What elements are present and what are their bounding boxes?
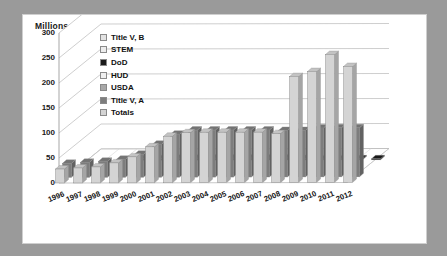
chart-plot-area: 1996199719981999200020012002200320042005… xyxy=(23,15,426,243)
x-axis-tick-label: 2012 xyxy=(335,189,354,204)
x-axis-tick-label: 2001 xyxy=(137,189,157,204)
x-axis-tick-label: 1998 xyxy=(83,189,102,204)
legend-item-label: STEM xyxy=(111,45,133,54)
legend-item-label: Totals xyxy=(111,108,134,117)
chart-outer-frame: Millions 300250200150100500 199619971998… xyxy=(0,0,447,256)
legend-item[interactable]: STEM xyxy=(100,44,144,57)
legend-item-label: DoD xyxy=(111,58,127,67)
legend-item-label: USDA xyxy=(111,83,134,92)
x-axis-tick-label: 2011 xyxy=(317,189,336,204)
legend-item-label: Title V, B xyxy=(111,33,144,42)
x-axis-tick-label: 2010 xyxy=(299,189,318,204)
legend-swatch-icon xyxy=(100,72,107,79)
legend-swatch-icon xyxy=(100,84,107,91)
x-axis-tick-label: 1996 xyxy=(47,189,66,204)
chart-canvas: Millions 300250200150100500 199619971998… xyxy=(22,14,427,244)
legend-item[interactable]: Title V, B xyxy=(100,31,144,44)
legend-item[interactable]: Title V, A xyxy=(100,94,144,107)
x-axis-tick-label: 2005 xyxy=(209,189,229,204)
legend-item-label: HUD xyxy=(111,71,128,80)
legend-item[interactable]: HUD xyxy=(100,69,144,82)
legend-swatch-icon xyxy=(100,109,107,116)
x-axis-tick-label: 2002 xyxy=(155,189,174,204)
legend-swatch-icon xyxy=(100,97,107,104)
x-axis-tick-label: 2009 xyxy=(281,189,300,204)
legend-item[interactable]: Totals xyxy=(100,107,144,120)
legend-swatch-icon xyxy=(100,46,107,53)
x-axis-tick-label: 2008 xyxy=(263,189,282,204)
x-axis-tick-label: 2006 xyxy=(227,189,246,204)
legend-item[interactable]: DoD xyxy=(100,56,144,69)
x-axis-tick-label: 2007 xyxy=(245,189,264,204)
x-axis-tick-label: 2004 xyxy=(191,189,211,204)
legend-item[interactable]: USDA xyxy=(100,81,144,94)
x-axis-tick-label: 2000 xyxy=(119,189,138,204)
legend-swatch-icon xyxy=(100,34,107,41)
chart-legend: Title V, BSTEMDoDHUDUSDATitle V, ATotals xyxy=(100,31,144,119)
x-axis-tick-label: 1999 xyxy=(101,189,120,204)
x-axis-tick-label: 1997 xyxy=(65,189,84,204)
legend-item-label: Title V, A xyxy=(111,96,144,105)
x-axis-tick-label: 2003 xyxy=(173,189,192,204)
legend-swatch-icon xyxy=(100,59,107,66)
